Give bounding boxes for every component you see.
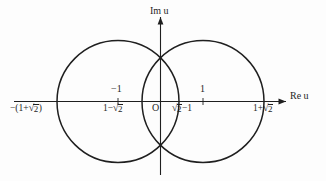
- right-outer-prefix: 1+: [253, 103, 263, 113]
- label-left-outer-intercept: −(1+√2): [10, 103, 42, 114]
- radicand: 2: [177, 104, 183, 114]
- radicand: 2: [118, 104, 124, 114]
- tick-label-minus-one: −1: [111, 84, 122, 94]
- real-axis-label: Re u: [290, 91, 309, 101]
- left-outer-prefix: −(1+: [10, 103, 29, 113]
- sqrt-group: √2: [263, 103, 273, 114]
- origin-label: O: [152, 103, 159, 113]
- sqrt-group: √2: [172, 103, 182, 114]
- imaginary-axis: [158, 17, 164, 175]
- left-inner-prefix: 1−: [103, 103, 113, 113]
- radicand: 2: [33, 104, 39, 114]
- imaginary-axis-arrowhead: [158, 17, 164, 25]
- sqrt-group: √2: [29, 103, 39, 114]
- imaginary-axis-label: Im u: [150, 6, 169, 16]
- complex-plane-figure: Im u Re u O −1 1 −(1+√2) 1−√2 √2−1 1+√2: [0, 0, 326, 181]
- label-left-inner-intercept: 1−√2: [103, 103, 123, 114]
- sqrt-group: √2: [113, 103, 123, 114]
- left-outer-suffix: ): [39, 103, 42, 113]
- real-axis-arrowhead: [279, 99, 287, 105]
- right-inner-suffix: −1: [182, 103, 192, 113]
- figure-canvas: [0, 0, 326, 181]
- radicand: 2: [268, 104, 274, 114]
- label-right-inner-intercept: √2−1: [172, 103, 192, 114]
- label-right-outer-intercept: 1+√2: [253, 103, 273, 114]
- tick-label-plus-one: 1: [200, 84, 205, 94]
- real-axis: [14, 99, 286, 105]
